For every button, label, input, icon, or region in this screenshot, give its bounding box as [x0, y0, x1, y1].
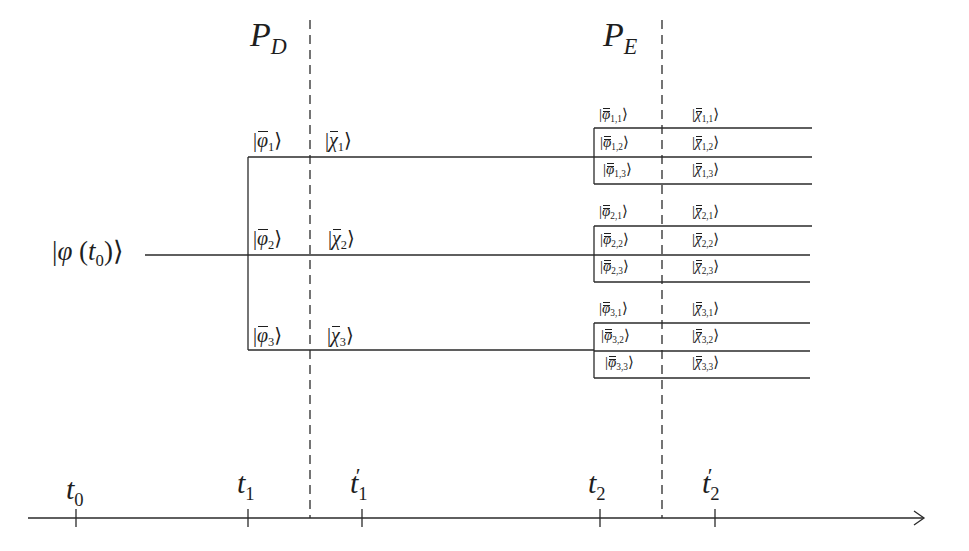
projector-pd-label: PD: [250, 18, 287, 58]
phi-2-label: |φ2⟩: [253, 228, 282, 252]
time-label-t2: t2: [588, 468, 606, 503]
chi-1-3-label: |χ1,3⟩: [692, 162, 719, 180]
chi-1-1-label: |χ1,1⟩: [692, 107, 719, 125]
phi-1-2-label: |φ1,2⟩: [600, 135, 629, 153]
phi-1-1-label: |φ1,1⟩: [599, 107, 628, 125]
time-label-t2-prime: t2′: [702, 468, 724, 503]
phi-2-2-label: |φ2,2⟩: [600, 232, 629, 250]
chi-2-label: |χ2⟩: [328, 228, 355, 252]
chi-3-1-label: |χ3,1⟩: [692, 301, 719, 319]
phi-3-label: |φ3⟩: [253, 325, 282, 349]
chi-1-2-label: |χ1,2⟩: [692, 135, 719, 153]
phi-3-1-label: |φ3,1⟩: [599, 301, 628, 319]
diagram-canvas: [0, 0, 969, 551]
time-label-t1-prime: t1′: [350, 468, 372, 503]
chi-2-3-label: |χ2,3⟩: [692, 259, 719, 277]
chi-2-2-label: |χ2,2⟩: [692, 232, 719, 250]
phi-1-label: |φ1⟩: [253, 130, 282, 154]
phi-3-2-label: |φ3,2⟩: [601, 328, 630, 346]
time-label-t0: t0: [66, 474, 84, 509]
projector-pe-label: PE: [603, 18, 637, 58]
initial-state-label: |φ (t0)⟩: [52, 238, 124, 270]
chi-3-3-label: |χ3,3⟩: [692, 355, 719, 373]
chi-3-2-label: |χ3,2⟩: [692, 328, 719, 346]
phi-3-3-label: |φ3,3⟩: [605, 355, 634, 373]
phi-2-1-label: |φ2,1⟩: [599, 204, 628, 222]
chi-1-label: |χ1⟩: [325, 130, 352, 154]
phi-2-3-label: |φ2,3⟩: [600, 259, 629, 277]
time-label-t1: t1: [237, 468, 255, 503]
chi-2-1-label: |χ2,1⟩: [692, 204, 719, 222]
phi-1-3-label: |φ1,3⟩: [603, 162, 632, 180]
chi-3-label: |χ3⟩: [327, 325, 354, 349]
